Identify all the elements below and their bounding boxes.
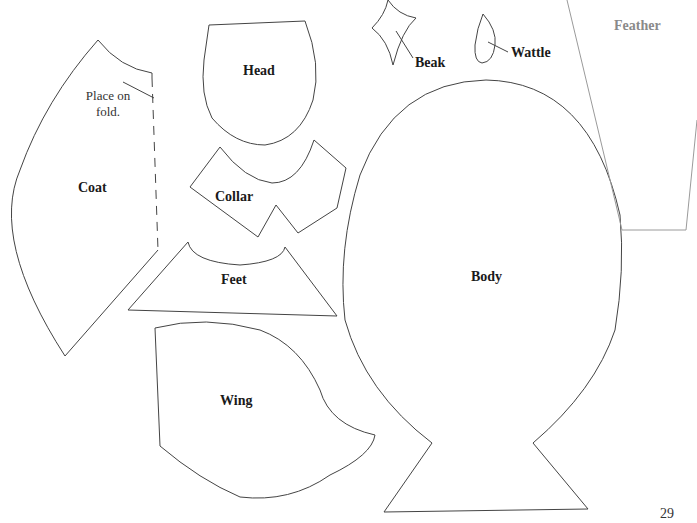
body-piece xyxy=(343,80,622,512)
feather-label: Feather xyxy=(614,18,661,34)
wing-piece xyxy=(155,322,375,498)
pattern-sheet xyxy=(0,0,697,523)
head-label: Head xyxy=(243,63,275,79)
feather-piece xyxy=(567,0,697,230)
wattle-piece xyxy=(475,14,508,63)
wattle-label: Wattle xyxy=(511,45,551,61)
head-piece xyxy=(203,21,316,145)
feet-label: Feet xyxy=(221,272,247,288)
collar-label: Collar xyxy=(215,189,253,205)
coat-label: Coat xyxy=(78,180,107,196)
body-label: Body xyxy=(471,269,502,285)
page-number: 29 xyxy=(660,506,674,522)
wing-label: Wing xyxy=(220,393,252,409)
collar-piece xyxy=(190,140,346,237)
place-on-fold-note: Place on fold. xyxy=(80,88,136,120)
beak-piece xyxy=(372,0,416,65)
beak-label: Beak xyxy=(415,55,445,71)
